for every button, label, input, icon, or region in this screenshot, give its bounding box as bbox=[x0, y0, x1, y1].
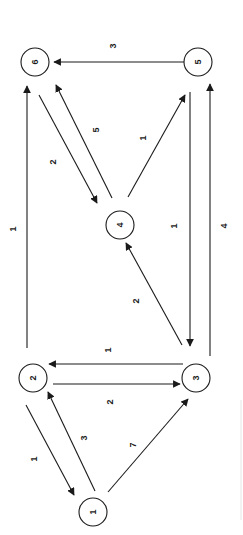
edge-weight-label: 2 bbox=[131, 298, 141, 303]
edge-weight-label: 3 bbox=[79, 435, 89, 440]
edge-weight-label: 2 bbox=[48, 159, 58, 164]
node-2: 2 bbox=[19, 364, 47, 392]
node-label: 2 bbox=[28, 375, 38, 380]
edge-weight-label: 1 bbox=[138, 135, 148, 140]
node-label: 4 bbox=[115, 222, 125, 227]
nodes-group: 123456 bbox=[19, 48, 212, 526]
edge-weight-label: 7 bbox=[128, 442, 138, 447]
edge-weight-label: 3 bbox=[108, 43, 118, 48]
node-label: 1 bbox=[88, 509, 98, 514]
node-label: 5 bbox=[193, 59, 203, 64]
edge-weight-label: 1 bbox=[8, 226, 18, 231]
edges-group bbox=[26, 62, 210, 495]
edge-weight-label: 4 bbox=[219, 223, 229, 228]
edge-2-to-1 bbox=[26, 405, 74, 495]
edge-weight-label: 5 bbox=[91, 127, 101, 132]
edge-3-to-4 bbox=[126, 243, 182, 345]
edge-1-to-3 bbox=[108, 399, 188, 492]
node-label: 3 bbox=[191, 375, 201, 380]
edge-weight-label: 1 bbox=[103, 347, 113, 352]
node-4: 4 bbox=[106, 211, 134, 239]
node-6: 6 bbox=[21, 48, 49, 76]
edge-weight-label: 1 bbox=[29, 456, 39, 461]
node-5: 5 bbox=[184, 48, 212, 76]
edge-weight-label: 2 bbox=[105, 399, 115, 404]
graph-diagram: 3125114212137 123456 bbox=[0, 0, 243, 535]
node-label: 6 bbox=[30, 59, 40, 64]
node-1: 1 bbox=[79, 498, 107, 526]
edge-weight-label: 1 bbox=[169, 223, 179, 228]
edge-4-to-5 bbox=[128, 95, 185, 197]
edge-labels-group: 3125114212137 bbox=[8, 43, 229, 461]
node-3: 3 bbox=[182, 364, 210, 392]
